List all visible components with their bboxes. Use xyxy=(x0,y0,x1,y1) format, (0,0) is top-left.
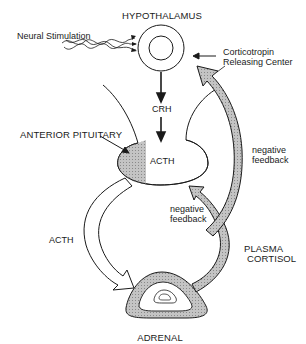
acth-arrow-label: ACTH xyxy=(49,236,74,245)
acth-pituitary-label: ACTH xyxy=(150,157,175,166)
adrenal-gland-icon xyxy=(126,272,207,318)
crh-label: CRH xyxy=(152,105,172,114)
neural-arrowheads xyxy=(131,35,137,52)
crc-label-line2: Releasing Center xyxy=(223,58,293,67)
crc-circle-icon xyxy=(138,25,184,71)
neg-feedback-right-line2: feedback xyxy=(252,156,289,165)
neural-stimulation-label: Neural Stimulation xyxy=(17,32,91,41)
anterior-pituitary-label: ANTERIOR PITUITARY xyxy=(20,130,122,140)
adrenal-label: ADRENAL xyxy=(130,333,190,343)
acth-hollow-arrow xyxy=(84,178,134,290)
crc-pointer-arrow xyxy=(193,53,216,59)
hypothalamus-title: HYPOTHALAMUS xyxy=(112,11,212,21)
negative-feedback-pituitary-arrow xyxy=(189,186,229,292)
neg-feedback-inner-line2: feedback xyxy=(170,215,207,224)
plasma-cortisol-line2: CORTISOL xyxy=(247,254,296,264)
